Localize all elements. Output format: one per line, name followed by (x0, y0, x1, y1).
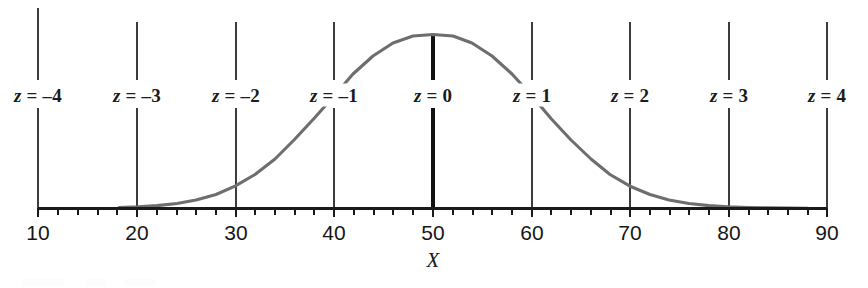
x-tick-label-80: 80 (717, 222, 740, 243)
z-variable-symbol: z (808, 85, 816, 106)
z-variable-symbol: z (710, 85, 718, 106)
z-variable-symbol: z (513, 85, 521, 106)
z-label-3-text: = 3 (717, 85, 748, 106)
z-label-1-text: = 1 (520, 85, 551, 106)
x-axis-title: X (427, 250, 440, 271)
normal-distribution-figure: z = –4 z = –3 z = –2 z = –1 z = 0 z = 1 … (0, 0, 868, 288)
normal-curve-path (119, 35, 808, 209)
x-tick-label-30: 30 (224, 222, 247, 243)
z-variable-symbol: z (611, 85, 619, 106)
x-tick-label-10: 10 (26, 222, 49, 243)
z-variable-symbol: z (310, 85, 318, 106)
z-variable-symbol: z (212, 85, 220, 106)
z-label-minus2: z = –2 (207, 84, 265, 107)
z-label-zero-text: = 0 (421, 85, 452, 106)
z-label-zero: z = 0 (409, 84, 457, 107)
z-variable-symbol: z (113, 85, 121, 106)
x-tick-label-40: 40 (322, 222, 345, 243)
z-label-3: z = 3 (705, 84, 753, 107)
z-label-4-text: = 4 (815, 85, 846, 106)
x-tick-label-90: 90 (815, 222, 838, 243)
x-tick-label-20: 20 (125, 222, 148, 243)
z-label-minus2-text: = –2 (220, 85, 260, 106)
z-label-minus3: z = –3 (108, 84, 166, 107)
z-label-2: z = 2 (606, 84, 654, 107)
z-label-minus4-text: = –4 (22, 85, 62, 106)
z-label-1: z = 1 (508, 84, 556, 107)
z-variable-symbol: z (414, 85, 422, 106)
z-label-minus3-text: = –3 (121, 85, 161, 106)
chart-plot-area (0, 0, 868, 288)
z-label-minus1-text: = –1 (318, 85, 358, 106)
z-label-minus4: z = –4 (9, 84, 67, 107)
z-label-4: z = 4 (803, 84, 851, 107)
x-tick-label-70: 70 (618, 222, 641, 243)
x-tick-label-50: 50 (421, 222, 444, 243)
x-tick-label-60: 60 (520, 222, 543, 243)
z-label-2-text: = 2 (618, 85, 649, 106)
z-variable-symbol: z (14, 85, 22, 106)
z-label-minus1: z = –1 (305, 84, 363, 107)
